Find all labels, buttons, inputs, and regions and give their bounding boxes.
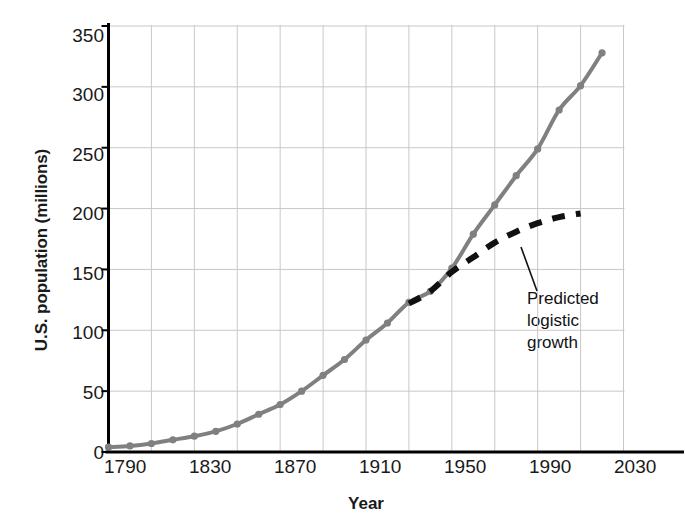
data-point xyxy=(255,411,262,418)
data-point xyxy=(534,145,541,152)
data-point xyxy=(341,356,348,363)
data-point xyxy=(319,372,326,379)
gridlines xyxy=(109,25,625,452)
data-point xyxy=(470,231,477,238)
population-data-line xyxy=(109,53,603,447)
data-point xyxy=(556,106,563,113)
data-point xyxy=(298,388,305,395)
data-point xyxy=(598,49,605,56)
data-point xyxy=(513,172,520,179)
data-point xyxy=(234,420,241,427)
data-point xyxy=(148,440,155,447)
plot-area xyxy=(0,0,685,529)
series-layer xyxy=(105,49,606,451)
data-point xyxy=(191,433,198,440)
data-point xyxy=(212,428,219,435)
axis-lines xyxy=(102,23,685,453)
data-point xyxy=(126,442,133,449)
data-point xyxy=(105,444,112,451)
data-point xyxy=(384,319,391,326)
data-point xyxy=(169,436,176,443)
data-point xyxy=(277,401,284,408)
data-point xyxy=(577,82,584,89)
data-point xyxy=(362,336,369,343)
population-growth-chart: U.S. population (millions) 350 300 250 2… xyxy=(0,0,685,529)
data-point xyxy=(491,201,498,208)
